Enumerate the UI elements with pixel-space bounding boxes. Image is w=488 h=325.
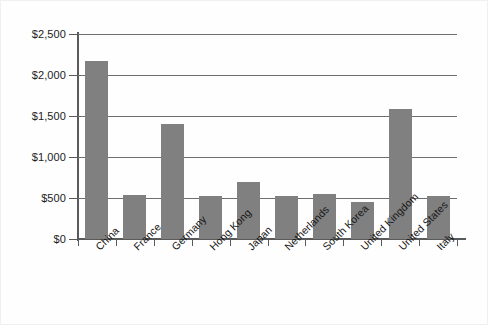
bar-germany [161, 124, 184, 239]
y-tick-mark-4 [69, 75, 77, 76]
bar-china [85, 61, 108, 239]
bar-chart-figure: $0 $500 $1,000 $1,500 $2,000 $2,500 [0, 0, 488, 325]
y-tick-mark-0 [69, 239, 77, 240]
y-tick-label-4: $2,000 [32, 69, 66, 81]
y-tick-mark-2 [69, 157, 77, 158]
y-tick-mark-3 [69, 116, 77, 117]
y-tick-mark-1 [69, 198, 77, 199]
y-tick-mark-5 [69, 34, 77, 35]
y-tick-label-2: $1,000 [32, 151, 66, 163]
x-axis-labels: ChinaFranceGermanyHong KongJapanNetherla… [78, 244, 457, 314]
y-tick-label-1: $500 [41, 192, 66, 204]
y-tick-label-3: $1,500 [32, 110, 66, 122]
y-tick-label-0: $0 [54, 233, 66, 245]
y-tick-label-5: $2,500 [32, 28, 66, 40]
x-tick-mark-9 [457, 239, 458, 246]
